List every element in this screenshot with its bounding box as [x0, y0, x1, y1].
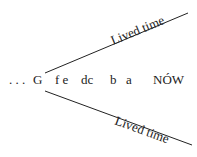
- time-sequence: . . . G f e dc b a NÓW: [0, 72, 197, 90]
- seq-a: a: [126, 72, 132, 88]
- seq-dc: dc: [81, 72, 93, 88]
- seq-now: NÓW: [153, 72, 184, 88]
- upper-label: Lived time: [108, 12, 166, 48]
- seq-fe: f e: [55, 72, 68, 88]
- lived-time-diagram: Lived time Lived time . . . G f e dc b a…: [0, 0, 197, 157]
- lower-label: Lived time: [113, 113, 172, 147]
- seq-b: b: [110, 72, 117, 88]
- seq-G: G: [33, 72, 42, 88]
- seq-ellipsis: . . .: [9, 72, 25, 88]
